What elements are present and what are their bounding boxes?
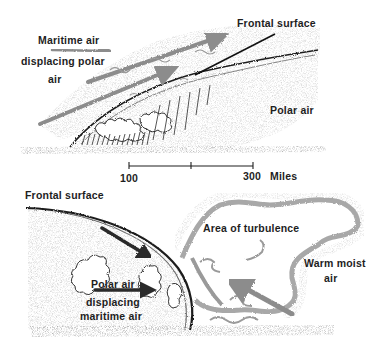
diagram-canvas: [0, 0, 384, 358]
label-maritime-air-bottom: maritime air: [80, 310, 142, 322]
turbulence-descending-band: [192, 258, 222, 305]
scale-label-300: 300: [243, 170, 261, 182]
label-frontal-surface-top: Frontal surface: [237, 17, 316, 29]
scale-unit-miles: Miles: [270, 170, 297, 182]
label-polar-air-bottom: Polar air: [91, 278, 135, 290]
maritime-arrow-legend: [52, 50, 108, 51]
label-warm-moist-air: air: [324, 272, 337, 284]
turbulence-area-outline: [182, 200, 358, 312]
label-displacing: displacing: [86, 296, 140, 308]
scale-label-100: 100: [120, 172, 138, 184]
label-air: air: [48, 73, 61, 85]
ground-bottom: [30, 325, 334, 337]
label-displacing-polar: displacing polar: [21, 55, 105, 67]
label-polar-air-top: Polar air: [270, 104, 314, 116]
label-warm-moist: Warm moist: [304, 257, 366, 269]
label-maritime-air: Maritime air: [38, 34, 99, 46]
label-area-of-turbulence: Area of turbulence: [203, 222, 299, 234]
scale-bar: [129, 162, 253, 169]
label-frontal-surface-bottom: Frontal surface: [25, 189, 104, 201]
